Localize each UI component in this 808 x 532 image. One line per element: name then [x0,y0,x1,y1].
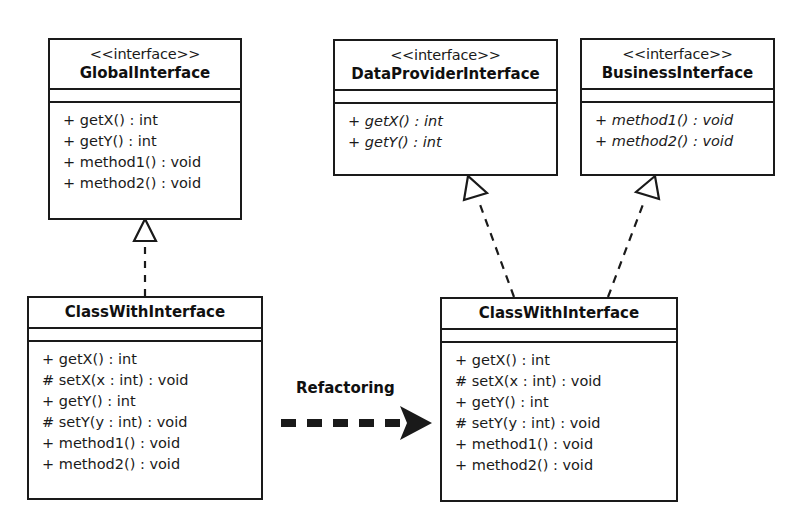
interface-name-label: DataProviderInterface [343,65,548,84]
attributes-compartment [29,329,261,342]
interface-box-global-interface[interactable]: <<interface>> GlobalInterface + getX() :… [48,38,242,220]
method-item: + method2() : void [595,131,773,152]
uml-diagram-canvas: <<interface>> GlobalInterface + getX() :… [0,0,808,532]
attributes-compartment [582,90,773,103]
attributes-compartment [50,90,240,103]
refactoring-label: Refactoring [296,379,395,397]
method-item: # setX(x : int) : void [42,370,261,391]
realization-line-data-provider [478,199,514,297]
method-item: # setY(y : int) : void [42,412,261,433]
methods-compartment: + getX() : int # setX(x : int) : void + … [442,343,676,500]
stereotype-label: <<interface>> [343,46,548,65]
method-item: + getX() : int [455,350,676,371]
stereotype-label: <<interface>> [590,45,765,64]
hollow-triangle-arrowhead-business [636,176,659,199]
method-item: + getY() : int [63,131,240,152]
hollow-triangle-arrowhead-data-provider [464,176,487,200]
method-item: + method2() : void [42,454,261,475]
method-item: + getX() : int [63,110,240,131]
method-item: # setX(x : int) : void [455,371,676,392]
methods-compartment: + getX() : int # setX(x : int) : void + … [29,342,261,498]
method-item: + method2() : void [455,455,676,476]
interface-name-label: BusinessInterface [590,64,765,83]
interface-name-label: GlobalInterface [58,64,232,83]
interface-box-business-interface[interactable]: <<interface>> BusinessInterface + method… [580,38,775,176]
method-item: + getY() : int [455,392,676,413]
method-item: + getX() : int [42,349,261,370]
class-header-after: ClassWithInterface [442,299,676,330]
realization-edge-business-interface [608,176,659,297]
method-item: + getY() : int [348,132,556,153]
realization-edge-global-interface [134,219,156,296]
stereotype-label: <<interface>> [58,45,232,64]
refactoring-arrow [281,406,432,440]
interface-header-data-provider-interface: <<interface>> DataProviderInterface [335,41,556,91]
realization-line-business [608,199,645,297]
method-item: + method1() : void [595,110,773,131]
class-box-class-with-interface-after[interactable]: ClassWithInterface + getX() : int # setX… [440,297,678,502]
realization-edge-data-provider-interface [464,176,514,297]
refactoring-arrow-head [400,406,432,440]
class-box-class-with-interface-before[interactable]: ClassWithInterface + getX() : int # setX… [27,296,263,500]
attributes-compartment [335,91,556,104]
method-item: + method2() : void [63,173,240,194]
attributes-compartment [442,330,676,343]
interface-box-data-provider-interface[interactable]: <<interface>> DataProviderInterface + ge… [333,39,558,176]
hollow-triangle-arrowhead-global [134,219,156,241]
method-item: + method1() : void [63,152,240,173]
method-item: + getX() : int [348,111,556,132]
methods-compartment: + getX() : int + getY() : int [335,104,556,174]
class-name-label: ClassWithInterface [450,304,668,323]
interface-header-global-interface: <<interface>> GlobalInterface [50,40,240,90]
methods-compartment: + getX() : int + getY() : int + method1(… [50,103,240,218]
method-item: + method1() : void [42,433,261,454]
methods-compartment: + method1() : void + method2() : void [582,103,773,174]
method-item: + getY() : int [42,391,261,412]
class-name-label: ClassWithInterface [37,303,253,322]
method-item: # setY(y : int) : void [455,413,676,434]
class-header-before: ClassWithInterface [29,298,261,329]
method-item: + method1() : void [455,434,676,455]
interface-header-business-interface: <<interface>> BusinessInterface [582,40,773,90]
